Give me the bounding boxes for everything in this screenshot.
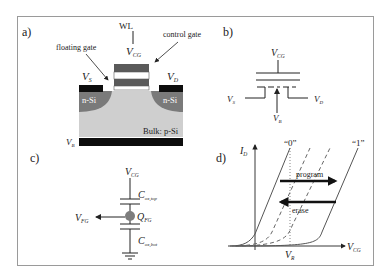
vd-label-a: VD <box>167 70 179 83</box>
qfg-label: QFG <box>137 211 152 223</box>
vd-label-b: VD <box>314 94 324 105</box>
state-0-label: “0” <box>284 138 297 148</box>
curve-intermediate-1 <box>232 148 310 246</box>
program-label: program <box>296 170 324 179</box>
panel-d: d) ID VCG VR “0” “1” program erase <box>216 138 365 261</box>
panel-b: b) VCG VS VD VB <box>223 25 324 124</box>
bulk-label: Bulk: p-Si <box>143 126 179 136</box>
vs-label-b: VS <box>227 94 236 105</box>
x-axis-label: VCG <box>347 241 361 253</box>
control-gate-arrow <box>155 42 178 62</box>
panel-d-label: d) <box>216 151 226 165</box>
floating-gate-label: floating gate <box>56 43 97 52</box>
vs-label-a: VS <box>82 70 92 83</box>
panel-a-label: a) <box>22 25 31 39</box>
source-contact <box>79 85 103 92</box>
curve-state-1 <box>236 148 358 246</box>
vcg-label-a: VCG <box>126 45 142 58</box>
control-gate-label: control gate <box>163 30 201 39</box>
panel-a: a) WL VCG floating gate control gate VS … <box>22 21 201 148</box>
panel-b-label: b) <box>223 25 233 39</box>
drain-contact <box>159 85 183 92</box>
vb-label-a: VB <box>66 137 75 148</box>
curve-state-0 <box>230 148 290 246</box>
floating-gate <box>114 79 149 86</box>
erase-label: erase <box>292 206 309 215</box>
c-top-label: Cox,top <box>138 189 158 202</box>
drain-region-label: n-Si <box>163 95 178 105</box>
y-axis-label: ID <box>239 145 247 157</box>
state-1-label: “1” <box>352 138 365 148</box>
c-bot-label: Cox,bot <box>138 235 158 248</box>
vr-label: VR <box>285 249 295 261</box>
bulk-contact <box>79 138 183 146</box>
vb-label-b: VB <box>273 113 282 124</box>
control-gate <box>114 64 149 72</box>
figure-canvas: a) WL VCG floating gate control gate VS … <box>0 0 392 280</box>
floating-gate-node <box>125 211 135 221</box>
curve-intermediate-2 <box>235 148 330 246</box>
vcg-label-b: VCG <box>271 47 285 59</box>
vfg-label: VFG <box>75 212 88 224</box>
panel-c-label: c) <box>30 151 39 165</box>
source-region-label: n-Si <box>82 95 97 105</box>
panel-c: c) VCG Cox,top QFG Cox,bot VFG <box>30 151 158 259</box>
transistor-symbol <box>245 60 308 113</box>
vcg-label-c: VCG <box>125 166 139 178</box>
tunnel-oxide <box>114 86 149 90</box>
wordline-label: WL <box>119 21 133 31</box>
inter-gate-oxide <box>114 72 149 79</box>
